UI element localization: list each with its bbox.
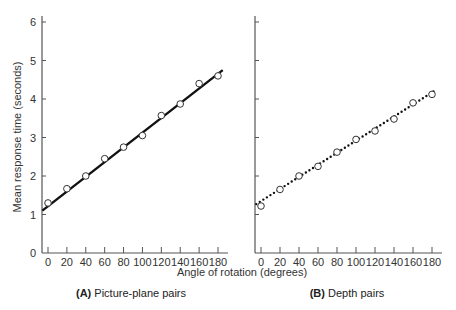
x-tick-label: 60 xyxy=(99,256,111,268)
panel-b-caption: (B) Depth pairs xyxy=(310,287,385,299)
data-point-marker xyxy=(101,155,108,162)
panel-b-depth: 020406080100120140160180 xyxy=(255,16,442,268)
data-point-marker xyxy=(296,173,303,180)
data-point-marker xyxy=(410,100,417,107)
data-point-marker xyxy=(45,200,52,207)
y-tick-label: 2 xyxy=(30,170,36,182)
data-point-marker xyxy=(196,80,203,87)
data-point-marker xyxy=(158,112,165,119)
x-tick-label: 180 xyxy=(423,256,441,268)
x-tick-label: 120 xyxy=(152,256,170,268)
data-point-marker xyxy=(258,203,265,210)
data-point-marker xyxy=(429,91,436,98)
data-point-marker xyxy=(391,116,398,123)
data-point-marker xyxy=(120,144,127,151)
y-tick-label: 1 xyxy=(30,209,36,221)
regression-line xyxy=(256,89,437,204)
panel-b-letter: (B) xyxy=(310,287,326,299)
data-point-marker xyxy=(353,136,360,143)
x-tick-label: 80 xyxy=(331,256,343,268)
y-tick-label: 5 xyxy=(30,55,36,67)
data-point-marker xyxy=(277,186,284,193)
data-point-marker xyxy=(64,185,71,192)
panel-a-caption: (A) Picture-plane pairs xyxy=(76,287,187,299)
x-tick-label: 140 xyxy=(385,256,403,268)
data-point-marker xyxy=(372,128,379,135)
y-tick-label: 0 xyxy=(30,247,36,259)
panel-a-caption-text: Picture-plane pairs xyxy=(91,287,186,299)
panel-a-letter: (A) xyxy=(76,287,92,299)
x-tick-label: 40 xyxy=(80,256,92,268)
data-point-marker xyxy=(177,101,184,108)
x-tick-label: 20 xyxy=(61,256,73,268)
x-axis-title: Angle of rotation (degrees) xyxy=(177,266,307,278)
panel-b-caption-text: Depth pairs xyxy=(325,287,385,299)
x-tick-label: 160 xyxy=(404,256,422,268)
chart-figure: 0123456020406080100120140160180 02040608… xyxy=(0,0,456,310)
y-tick-label: 4 xyxy=(30,93,36,105)
data-point-marker xyxy=(334,149,341,156)
x-tick-label: 60 xyxy=(312,256,324,268)
x-tick-label: 80 xyxy=(117,256,129,268)
panel-a-picture-plane: 0123456020406080100120140160180 xyxy=(30,16,228,268)
y-axis-title: Mean response time (seconds) xyxy=(11,61,23,212)
x-tick-label: 120 xyxy=(366,256,384,268)
data-point-marker xyxy=(82,173,89,180)
data-point-marker xyxy=(315,163,322,170)
data-point-marker xyxy=(139,132,146,139)
y-tick-label: 3 xyxy=(30,132,36,144)
x-tick-label: 100 xyxy=(347,256,365,268)
x-tick-label: 100 xyxy=(133,256,151,268)
y-tick-label: 6 xyxy=(30,16,36,28)
data-point-marker xyxy=(215,73,222,80)
x-tick-label: 0 xyxy=(45,256,51,268)
